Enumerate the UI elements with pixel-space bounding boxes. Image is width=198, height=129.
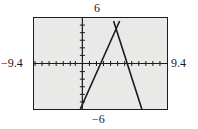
x-min-label: −9.4 — [1, 57, 23, 69]
y-max-label: 6 — [94, 2, 100, 14]
plot-area — [34, 18, 167, 109]
line-series-1 — [80, 21, 119, 109]
calculator-graph-figure: 6 −9.4 9.4 −6 — [0, 0, 198, 129]
x-max-label: 9.4 — [171, 57, 186, 69]
y-min-label: −6 — [92, 113, 105, 125]
calculator-viewport — [33, 17, 168, 110]
